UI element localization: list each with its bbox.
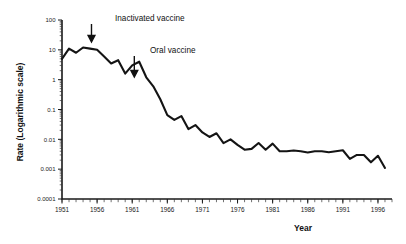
x-axis-title: Year — [294, 223, 313, 233]
annotation-label: Oral vaccine — [150, 46, 196, 55]
x-tick-label: 1981 — [266, 206, 281, 213]
x-tick-label: 1996 — [371, 206, 386, 213]
x-tick-label: 1991 — [336, 206, 351, 213]
y-tick-label: 0.001 — [40, 166, 56, 172]
annotation-arrow-head — [131, 71, 138, 78]
y-tick-label: 100 — [45, 17, 56, 23]
chart-figure: 1001010.10.010.0010.00011951195619611966… — [0, 0, 406, 244]
y-tick-label: 0.0001 — [37, 196, 56, 202]
y-tick-label: 0.01 — [44, 137, 56, 143]
line-chart: 1001010.10.010.0010.00011951195619611966… — [0, 0, 406, 244]
x-tick-label: 1971 — [195, 206, 210, 213]
x-tick-label: 1986 — [301, 206, 316, 213]
x-tick-label: 1966 — [160, 206, 175, 213]
axis-lines — [62, 20, 392, 199]
data-series-line — [62, 47, 385, 167]
x-tick-label: 1976 — [230, 206, 245, 213]
y-tick-label: 0.1 — [47, 107, 56, 113]
annotation-arrow-head — [88, 36, 95, 43]
y-tick-label: 1 — [52, 77, 56, 83]
x-tick-label: 1951 — [55, 206, 70, 213]
y-tick-label: 10 — [49, 47, 56, 53]
x-tick-label: 1961 — [125, 206, 140, 213]
x-tick-label: 1956 — [90, 206, 105, 213]
annotation-label: Inactivated vaccine — [115, 14, 185, 23]
y-axis-title: Rate (Logarithmic scale) — [15, 62, 25, 161]
